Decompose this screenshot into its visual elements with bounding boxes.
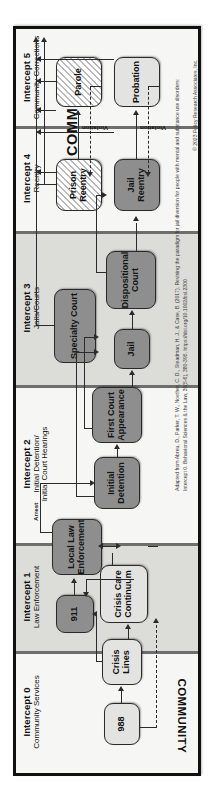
edge-arrest-v: [40, 483, 90, 484]
edge-988-down: [140, 727, 156, 728]
arrowhead: [133, 110, 139, 115]
arrowhead: [36, 78, 41, 84]
arrowhead: [92, 611, 97, 617]
rotated-canvas: Intercept 0 Community Services Intercept…: [0, 0, 215, 794]
edge-label-arrest: Arrest: [32, 503, 39, 521]
arrowhead: [102, 192, 107, 198]
intercept-2-number: Intercept 2: [22, 385, 32, 543]
edge-local-law-crisis-care-v: [102, 579, 134, 580]
band-title-0: Intercept 0 Community Services: [22, 651, 41, 773]
edge-community-out-2: [44, 42, 45, 185]
band-title-3: Intercept 3 Jails/Courts: [22, 231, 41, 385]
node-jail[interactable]: Jail: [114, 329, 150, 369]
node-dispositional-court[interactable]: Dispositional Court: [106, 251, 156, 309]
edge-label-violation-probation: Violation: [140, 125, 166, 132]
arrowhead: [36, 129, 41, 135]
sequential-intercept-poster: Intercept 0 Community Services Intercept…: [13, 26, 201, 776]
arrowhead: [94, 334, 99, 340]
intercept-0-subtitle: Community Services: [33, 651, 41, 773]
intercept-4-number: Intercept 4: [22, 126, 32, 231]
edge-prison-reentry-to-parole: [78, 115, 79, 159]
arrowhead: [125, 624, 131, 629]
edge-crisis-lines-to-crisis-care: [128, 629, 129, 639]
intercept-1-subtitle: Law Enforcement: [33, 543, 41, 651]
edge-911-to-local-law: [74, 583, 75, 595]
node-911[interactable]: 911: [56, 595, 94, 633]
arrowhead: [114, 444, 120, 449]
arrowhead: [71, 578, 77, 583]
edge-crisis-lines-to-911: [96, 614, 97, 662]
arrowhead: [33, 37, 39, 42]
edge-crisis-care-to-local-law: [112, 553, 113, 565]
arrowhead: [145, 172, 151, 177]
arrowhead: [36, 56, 41, 62]
edge-dispositional-to-prison-reentry: [96, 195, 97, 273]
arrowhead: [116, 543, 121, 549]
arrowhead: [90, 480, 95, 486]
edge-local-law-to-911: [86, 579, 87, 593]
edge-jail-to-dispositional: [132, 315, 133, 329]
edge-crisis-care-up: [148, 546, 158, 547]
node-probation[interactable]: Probation: [114, 57, 160, 107]
intercept-0-number: Intercept 0: [22, 651, 32, 773]
node-988[interactable]: 988: [104, 703, 140, 745]
arrowhead: [129, 370, 135, 375]
band-title-4: Intercept 4 Reentry: [22, 126, 41, 231]
edge-to-specialty-court-2: [84, 337, 85, 429]
edge-988-to-crisis-lines: [121, 691, 122, 703]
edge-initial-detention-to-first-court: [117, 449, 118, 457]
edge-jail-reentry-to-probation: [136, 115, 137, 159]
node-first-court-appearance[interactable]: First Court Appearance: [92, 387, 142, 443]
edge-probation-to-community: [36, 59, 114, 60]
citation-text: Adapted from Abreu, D., Parker, T. W., N…: [174, 61, 189, 491]
edge-988-dashed-to-crisis-care: [156, 620, 157, 728]
arrowhead: [36, 107, 41, 113]
arrowhead: [118, 686, 124, 691]
node-crisis-lines[interactable]: Crisis Lines: [102, 639, 142, 685]
community-label-services: COMMUNITY: [176, 678, 188, 753]
node-local-law-enforcement[interactable]: Local Law Enforcement: [52, 519, 102, 575]
diagram-page: Intercept 0 Community Services Intercept…: [0, 0, 215, 794]
edge-to-specialty-court-1: [76, 352, 77, 497]
arrowhead: [98, 543, 103, 549]
edge-dispositional-up: [96, 272, 106, 273]
node-parole[interactable]: Parole: [56, 57, 102, 107]
edge-dispositional-to-jail-reentry: [136, 223, 137, 251]
intercept-2-subtitle-2: Initial Court Hearings: [41, 385, 49, 543]
edge-arrest-h: [40, 483, 41, 533]
arrowhead: [75, 110, 81, 115]
intercept-5-number: Intercept 5: [22, 29, 32, 126]
arrowhead: [87, 172, 93, 177]
arrowhead: [94, 349, 99, 355]
edge-jail-reentry-to-community: [36, 132, 114, 133]
edge-first-court-to-jail: [132, 375, 133, 387]
arrowhead: [133, 216, 139, 221]
arrowhead: [129, 310, 135, 315]
arrowhead: [36, 169, 41, 175]
band-title-1: Intercept 1 Law Enforcement: [22, 543, 41, 651]
node-jail-reentry[interactable]: Jail Reentry: [114, 159, 160, 211]
intercept-3-number: Intercept 3: [22, 231, 32, 385]
edge-local-law-up: [40, 532, 52, 533]
arrowhead: [83, 592, 89, 597]
copyright-text: © 2023 Policy Research Associates, Inc.: [192, 59, 198, 151]
edge-initial-detention-up: [76, 496, 94, 497]
node-crisis-care-continuum[interactable]: Crisis Care Continuum: [100, 565, 148, 623]
edge-specialty-court-to-community-v: [36, 325, 54, 326]
arrowhead: [41, 37, 47, 42]
edge-local-law-down: [102, 546, 116, 547]
intercept-1-number: Intercept 1: [22, 543, 32, 651]
node-initial-detention[interactable]: Initial Detention: [94, 457, 140, 509]
arrowhead: [153, 618, 159, 623]
